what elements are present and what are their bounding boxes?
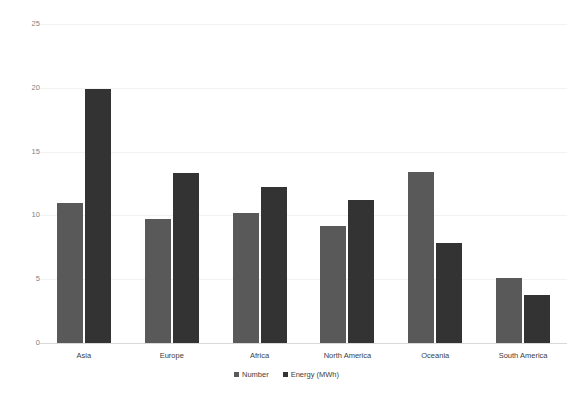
legend-swatch-icon (283, 372, 288, 377)
gridline (40, 279, 567, 280)
x-axis-category-label: Africa (250, 352, 269, 360)
bar-group (320, 24, 374, 343)
bar[interactable] (57, 203, 83, 343)
legend-label: Number (242, 371, 269, 379)
y-axis-tick-label: 10 (14, 211, 40, 219)
bar[interactable] (524, 295, 550, 343)
bar[interactable] (173, 173, 199, 343)
gridline (40, 88, 567, 89)
y-axis-tick-label: 5 (14, 275, 40, 283)
gridline (40, 152, 567, 153)
bar-group (496, 24, 550, 343)
x-axis-category-label: Europe (160, 352, 184, 360)
x-axis-category-label: South America (499, 352, 548, 360)
plot-area (40, 24, 567, 343)
bar-group (408, 24, 462, 343)
bar[interactable] (85, 89, 111, 343)
x-axis-category-label: Asia (77, 352, 92, 360)
legend-label: Energy (MWh) (291, 371, 339, 379)
x-axis-line (40, 343, 567, 344)
legend-swatch-icon (234, 372, 239, 377)
bar[interactable] (348, 200, 374, 343)
y-axis-tick-label: 20 (14, 84, 40, 92)
x-axis-category-label: Oceania (421, 352, 449, 360)
bar[interactable] (496, 278, 522, 343)
y-axis-tick-label: 15 (14, 148, 40, 156)
gridline (40, 24, 567, 25)
bar-chart: 0510152025 AsiaEuropeAfricaNorth America… (0, 0, 573, 396)
bar[interactable] (145, 219, 171, 343)
bar[interactable] (233, 213, 259, 343)
legend-item[interactable]: Number (234, 371, 269, 379)
bar[interactable] (436, 243, 462, 343)
bar[interactable] (408, 172, 434, 343)
legend-item[interactable]: Energy (MWh) (283, 371, 339, 379)
x-axis-category-label: North America (324, 352, 372, 360)
bar-group (57, 24, 111, 343)
bar-group (145, 24, 199, 343)
bar[interactable] (261, 187, 287, 343)
y-axis-tick-label: 25 (14, 20, 40, 28)
chart-legend: NumberEnergy (MWh) (0, 371, 573, 379)
bar[interactable] (320, 226, 346, 343)
bar-group (233, 24, 287, 343)
y-axis-tick-label: 0 (14, 339, 40, 347)
gridline (40, 215, 567, 216)
